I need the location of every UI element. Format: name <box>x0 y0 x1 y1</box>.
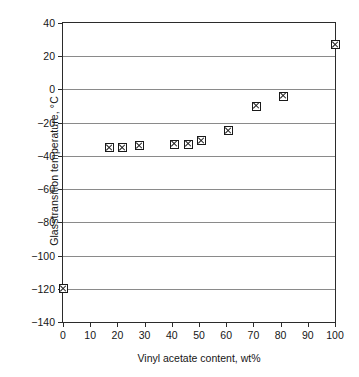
plot-area: 40200−20−40−60−80−100−120−14001020304050… <box>62 22 336 323</box>
y-axis-tick <box>58 222 63 223</box>
x-axis-tick-label: 60 <box>220 329 232 341</box>
y-axis-tick <box>58 56 63 57</box>
x-axis-tick <box>335 322 336 327</box>
y-axis-tick <box>58 123 63 124</box>
chart-figure: Glasstransition temperature, °C 40200−20… <box>0 0 359 377</box>
y-axis-tick <box>58 256 63 257</box>
gridline-horizontal <box>63 256 335 257</box>
data-point-marker <box>184 140 193 149</box>
y-axis-tick-label: −120 <box>31 283 55 295</box>
gridline-horizontal <box>63 222 335 223</box>
data-point-marker <box>331 40 340 49</box>
y-axis-tick <box>58 23 63 24</box>
x-axis-tick <box>172 322 173 327</box>
x-axis-tick <box>145 322 146 327</box>
data-point-marker <box>59 284 68 293</box>
x-axis-tick-label: 30 <box>139 329 151 341</box>
x-axis-tick <box>281 322 282 327</box>
y-axis-tick-label: −60 <box>37 183 55 195</box>
data-point-marker <box>135 141 144 150</box>
x-axis-tick-label: 20 <box>112 329 124 341</box>
x-axis-tick <box>63 322 64 327</box>
x-axis-tick-label: 0 <box>60 329 66 341</box>
x-axis-tick <box>308 322 309 327</box>
gridline-horizontal <box>63 156 335 157</box>
y-axis-tick <box>58 156 63 157</box>
gridline-horizontal <box>63 189 335 190</box>
data-point-marker <box>252 102 261 111</box>
gridline-horizontal <box>63 56 335 57</box>
data-point-marker <box>279 92 288 101</box>
y-axis-tick-label: 20 <box>43 50 55 62</box>
data-point-marker <box>170 140 179 149</box>
y-axis-tick <box>58 189 63 190</box>
x-axis-tick-label: 10 <box>84 329 96 341</box>
data-point-marker <box>224 126 233 135</box>
y-axis-tick-label: −100 <box>31 250 55 262</box>
y-axis-tick <box>58 89 63 90</box>
y-axis-tick-label: −80 <box>37 216 55 228</box>
x-axis-tick <box>117 322 118 327</box>
y-axis-title: Glasstransition temperature, °C <box>48 31 60 311</box>
x-axis-tick-label: 50 <box>193 329 205 341</box>
x-axis-tick-label: 80 <box>275 329 287 341</box>
data-point-marker <box>118 143 127 152</box>
x-axis-tick <box>199 322 200 327</box>
x-axis-tick-label: 70 <box>248 329 260 341</box>
y-axis-tick-label: −40 <box>37 150 55 162</box>
data-point-marker <box>197 136 206 145</box>
gridline-horizontal <box>63 123 335 124</box>
y-axis-tick-label: 40 <box>43 17 55 29</box>
x-axis-tick-label: 100 <box>326 329 344 341</box>
x-axis-tick-label: 40 <box>166 329 178 341</box>
y-axis-tick-label: 0 <box>49 83 55 95</box>
gridline-horizontal <box>63 89 335 90</box>
x-axis-tick <box>253 322 254 327</box>
data-point-marker <box>105 143 114 152</box>
y-axis-tick-label: −140 <box>31 316 55 328</box>
x-axis-tick-label: 90 <box>302 329 314 341</box>
x-axis-tick <box>226 322 227 327</box>
x-axis-tick <box>90 322 91 327</box>
y-axis-tick-label: −20 <box>37 117 55 129</box>
x-axis-title: Vinyl acetate content, wt% <box>62 352 336 364</box>
gridline-horizontal <box>63 289 335 290</box>
